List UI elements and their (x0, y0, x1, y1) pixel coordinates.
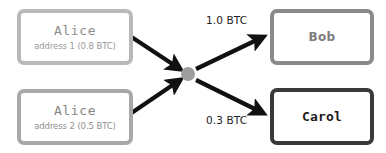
input-node-subtitle: address 2 (0.5 BTC) (34, 120, 116, 132)
input-node-alice-address-1[interactable]: Alice address 1 (0.8 BTC) (17, 9, 133, 65)
arrow-hub-to-bob (196, 37, 263, 69)
arrow-alice1-to-hub (130, 36, 180, 69)
input-node-title: Alice (54, 23, 96, 38)
arrow-alice2-to-hub (130, 80, 180, 114)
edge-label-carol-amount: 0.3 BTC (206, 114, 247, 126)
input-node-subtitle: address 1 (0.8 BTC) (34, 40, 116, 52)
transaction-node-circle-icon[interactable] (181, 67, 195, 81)
output-node-carol[interactable]: Carol (270, 88, 374, 145)
edge-label-bob-amount: 1.0 BTC (206, 14, 247, 26)
output-node-title: Carol (302, 109, 342, 124)
output-node-bob[interactable]: Bob (270, 9, 374, 65)
output-node-title: Bob (309, 30, 336, 44)
transaction-diagram: Alice address 1 (0.8 BTC) Alice address … (0, 0, 386, 153)
input-node-title: Alice (54, 103, 96, 118)
input-node-alice-address-2[interactable]: Alice address 2 (0.5 BTC) (17, 89, 133, 145)
arrow-hub-to-carol (196, 80, 263, 113)
